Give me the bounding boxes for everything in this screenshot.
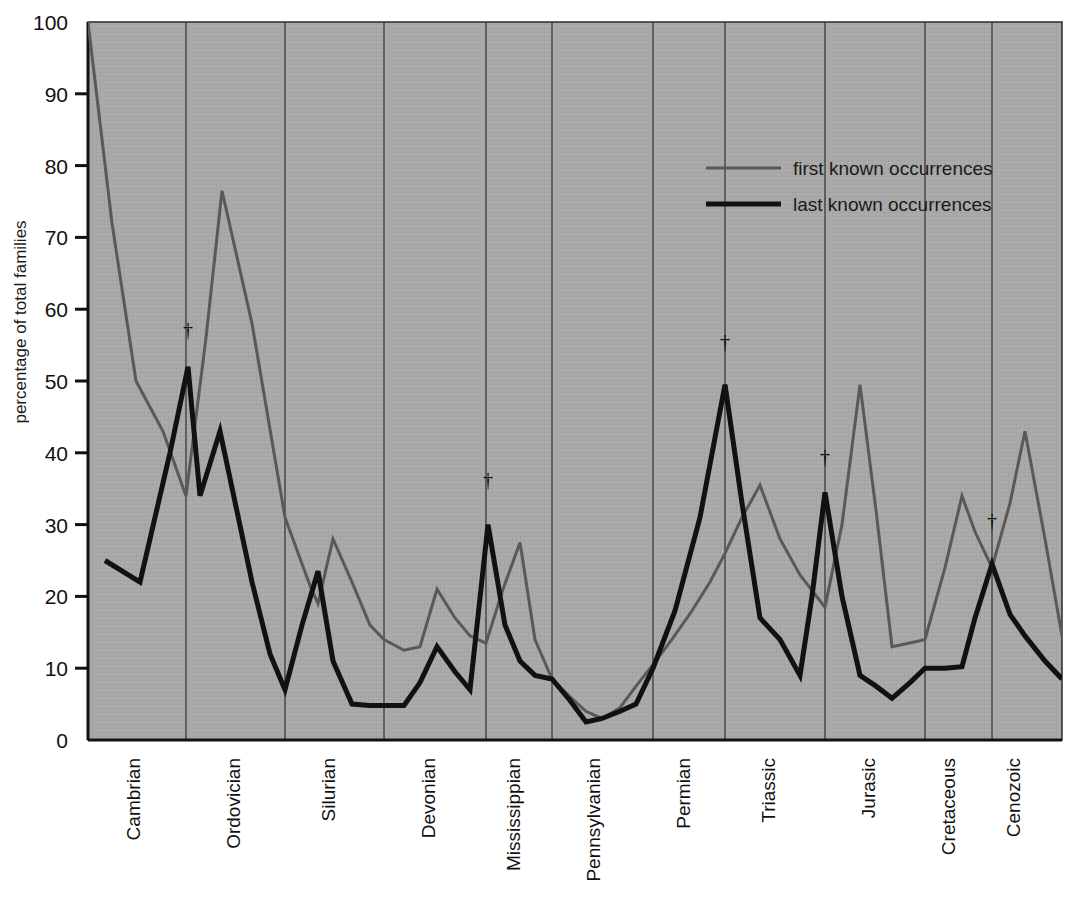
y-tick-label-4: 40 [45, 442, 68, 465]
extinction-marker-4: † [987, 510, 997, 532]
y-tick-label-8: 80 [45, 155, 68, 178]
legend-label-0: first known occurrences [793, 158, 993, 179]
y-axis-title: percentage of total families [11, 220, 30, 423]
y-tick-label-10: 100 [33, 11, 68, 34]
period-label-ordovician: Ordovician [223, 758, 244, 849]
period-label-devonian: Devonian [418, 758, 439, 838]
line-chart: 0102030405060708090100percentage of tota… [0, 0, 1086, 903]
period-label-jurasic: Jurasic [858, 758, 879, 818]
period-label-cenozoic: Cenozoic [1003, 758, 1024, 837]
extinction-marker-2: † [720, 331, 730, 353]
period-label-cretaceous: Cretaceous [938, 758, 959, 855]
y-tick-label-7: 70 [45, 226, 68, 249]
y-tick-label-1: 10 [45, 657, 68, 680]
period-label-silurian: Silurian [318, 758, 339, 821]
x-axis-period-labels: CambrianOrdovicianSilurianDevonianMissis… [123, 758, 1024, 882]
extinction-marker-1: † [483, 469, 493, 491]
y-tick-label-6: 60 [45, 298, 68, 321]
y-tick-label-5: 50 [45, 370, 68, 393]
period-label-pennsylvanian: Pennsylvanian [583, 758, 604, 882]
y-tick-label-0: 0 [56, 729, 68, 752]
period-label-cambrian: Cambrian [123, 758, 144, 840]
y-tick-label-9: 90 [45, 83, 68, 106]
chart-figure: 0102030405060708090100percentage of tota… [0, 0, 1086, 903]
plot-background [88, 22, 1062, 740]
y-tick-label-2: 20 [45, 585, 68, 608]
y-tick-label-3: 30 [45, 514, 68, 537]
period-label-permian: Permian [673, 758, 694, 829]
extinction-marker-3: † [820, 446, 830, 468]
period-label-triassic: Triassic [758, 758, 779, 823]
legend-label-1: last known occurrences [793, 194, 992, 215]
period-label-mississippian: Mississippian [503, 758, 524, 871]
extinction-marker-0: † [183, 319, 193, 341]
y-axis-ticks: 0102030405060708090100 [33, 11, 88, 752]
